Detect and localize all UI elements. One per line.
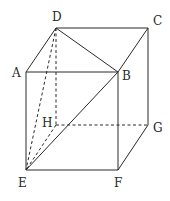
solid-edges: [26, 28, 148, 170]
label-A: A: [11, 66, 21, 80]
edge-FG: [118, 125, 148, 170]
label-C: C: [153, 14, 162, 28]
dashed-edges: [26, 28, 148, 170]
label-E: E: [18, 176, 27, 190]
label-F: F: [114, 176, 122, 190]
label-G: G: [153, 121, 163, 135]
prism-diagram: A B C D E F G H: [0, 0, 170, 201]
label-B: B: [122, 69, 131, 83]
vertex-labels: A B C D E F G H: [11, 10, 163, 190]
label-H: H: [42, 116, 52, 130]
edge-EB: [26, 72, 118, 170]
edge-CB: [118, 28, 148, 72]
edge-DB: [56, 28, 118, 72]
label-D: D: [52, 10, 62, 24]
